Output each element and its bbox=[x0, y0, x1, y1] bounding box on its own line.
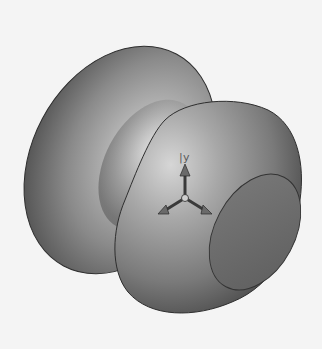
solid-body[interactable] bbox=[0, 13, 319, 313]
model-viewport[interactable]: | y bbox=[0, 0, 322, 349]
triad-origin bbox=[182, 195, 189, 202]
y-axis-label: y bbox=[183, 151, 190, 164]
